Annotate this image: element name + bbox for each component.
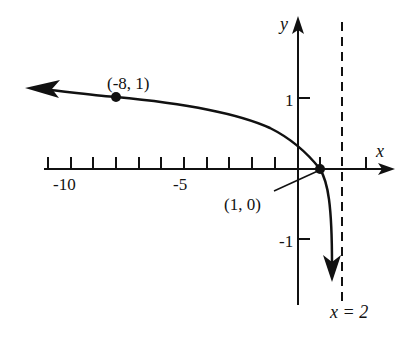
point-neg8-1 [111,92,121,102]
y-tick-label-neg1: -1 [279,232,293,251]
point-1-0 [315,164,325,174]
y-tick-label-1: 1 [285,91,294,110]
point-label-neg8-1: (-8, 1) [107,74,149,93]
curve-left-arrow-icon [25,80,60,98]
log-function-graph: -10 -5 x 1 -1 y x = 2 (-8, 1) (1, 0) [0,0,404,341]
x-tick-label-neg10: -10 [53,175,76,194]
x-tick-label-neg5: -5 [173,175,187,194]
y-axis: 1 -1 y [278,14,310,305]
x-axis-label: x [375,141,384,161]
asymptote-label: x = 2 [329,302,368,322]
point-label-1-0: (1, 0) [224,195,261,214]
y-axis-label: y [278,14,288,34]
